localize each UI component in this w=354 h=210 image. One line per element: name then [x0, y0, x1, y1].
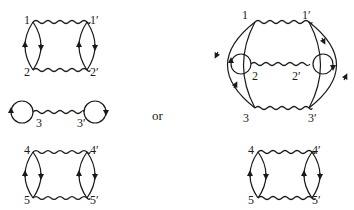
right-vertex-5-prime: 5′ — [312, 194, 321, 206]
vertex-5-prime: 5′ — [90, 194, 99, 206]
right-vertex-3-prime: 3′ — [308, 112, 317, 124]
right-vertex-4: 4 — [248, 144, 254, 156]
feynman-diagrams — [0, 0, 354, 210]
left-top-diagram — [25, 21, 95, 72]
vertex-2: 2 — [24, 66, 30, 78]
vertex-2-prime: 2′ — [90, 66, 99, 78]
vertex-5: 5 — [24, 194, 30, 206]
vertex-4-prime: 4′ — [90, 144, 99, 156]
vertex-3: 3 — [36, 117, 42, 129]
right-vertex-4-prime: 4′ — [312, 144, 321, 156]
right-vertex-1-prime: 1′ — [302, 9, 311, 21]
right-vertex-5: 5 — [248, 194, 254, 206]
or-connector: or — [152, 108, 163, 124]
right-vertex-2: 2 — [252, 70, 258, 82]
vertex-4: 4 — [24, 144, 30, 156]
right-vertex-2-prime: 2′ — [292, 70, 301, 82]
right-vertex-1: 1 — [242, 9, 248, 21]
left-middle-diagram — [11, 101, 106, 123]
right-main-diagram — [216, 21, 346, 110]
right-vertex-3: 3 — [243, 112, 249, 124]
vertex-1: 1 — [24, 14, 30, 26]
left-bottom-diagram — [25, 151, 95, 200]
right-bottom-diagram — [250, 151, 320, 200]
vertex-1-prime: 1′ — [90, 14, 99, 26]
vertex-3-prime: 3′ — [77, 117, 86, 129]
